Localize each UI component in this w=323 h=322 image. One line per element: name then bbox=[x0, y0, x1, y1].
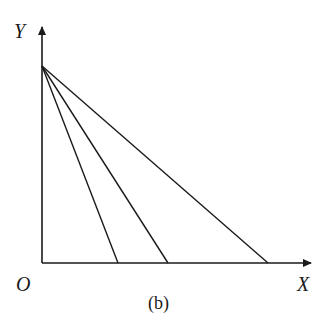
figure-caption: (b) bbox=[148, 293, 169, 314]
line-2 bbox=[42, 66, 168, 263]
line-1 bbox=[42, 66, 118, 263]
line-3 bbox=[42, 66, 268, 263]
diagram: Y X O (b) bbox=[0, 0, 323, 322]
origin-label: O bbox=[16, 273, 30, 295]
y-axis-label: Y bbox=[14, 20, 27, 42]
x-axis-label: X bbox=[296, 273, 310, 295]
